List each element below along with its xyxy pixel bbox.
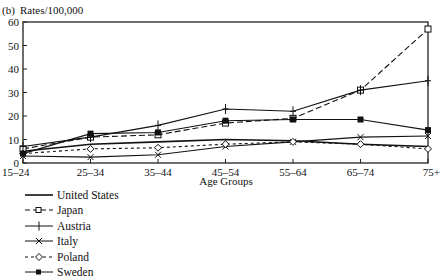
legend-label: Poland: [57, 251, 89, 263]
x-tick-label: 55–64: [279, 166, 307, 178]
series-poland: [20, 138, 432, 157]
legend-label: United States: [57, 189, 119, 201]
legend: United States Japan Austria Italy Poland…: [24, 187, 119, 280]
x-tick-label: 35–44: [144, 166, 172, 178]
legend-swatch-x-icon: [24, 236, 54, 246]
y-tick-label: 20: [8, 110, 20, 122]
y-tick-label: 50: [8, 40, 20, 52]
x-tick-label: 65–74: [347, 166, 375, 178]
legend-label: Japan: [57, 204, 83, 216]
legend-item-poland: Poland: [24, 249, 119, 265]
data-series: [20, 26, 432, 160]
legend-label: Austria: [57, 220, 91, 232]
legend-swatch-solid-line-icon: [24, 190, 54, 200]
x-axis-title: Age Groups: [199, 175, 252, 187]
legend-item-japan: Japan: [24, 203, 119, 219]
y-tick-label: 30: [8, 87, 20, 99]
x-tick-label: 15–24: [2, 166, 30, 178]
legend-label: Italy: [57, 235, 78, 247]
legend-item-united-states: United States: [24, 187, 119, 203]
legend-swatch-plus-icon: [24, 221, 54, 231]
legend-item-sweden: Sweden: [24, 265, 119, 280]
x-tick-label: 75+: [423, 166, 440, 178]
legend-label: Sweden: [57, 266, 93, 278]
legend-item-austria: Austria: [24, 218, 119, 234]
x-tick-label: 25–34: [77, 166, 105, 178]
y-tick-label: 40: [8, 63, 20, 75]
legend-swatch-open-square-icon: [24, 205, 54, 215]
y-tick-label: 10: [8, 134, 20, 146]
legend-swatch-filled-square-icon: [24, 267, 54, 277]
legend-item-italy: Italy: [24, 234, 119, 250]
legend-swatch-open-diamond-icon: [24, 252, 54, 262]
y-axis-unit-label: Rates/100,000: [20, 4, 84, 16]
y-tick-label: 60: [8, 16, 20, 28]
